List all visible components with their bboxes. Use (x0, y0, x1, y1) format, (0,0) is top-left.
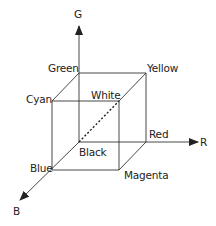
vertex-label-blue: Blue (30, 162, 52, 174)
axis-label-g: G (74, 8, 82, 20)
vertex-label-white: White (91, 89, 121, 101)
grayscale-diagonal (79, 101, 119, 142)
vertex-label-red: Red (149, 128, 168, 140)
axis-label-r: R (200, 136, 207, 148)
cube-graphic (0, 0, 216, 226)
vertex-label-black: Black (79, 146, 106, 158)
edge-red-magenta (119, 142, 146, 170)
vertex-label-green: Green (48, 62, 79, 74)
edge-green-cyan (52, 73, 79, 101)
rgb-color-cube-diagram: G R B Green Yellow Cyan White Red Black … (0, 0, 216, 226)
vertex-label-magenta: Magenta (124, 169, 168, 181)
axis-label-b: B (13, 205, 20, 217)
vertex-label-cyan: Cyan (26, 93, 52, 105)
edge-yellow-white (119, 73, 146, 101)
vertex-label-yellow: Yellow (147, 62, 178, 74)
